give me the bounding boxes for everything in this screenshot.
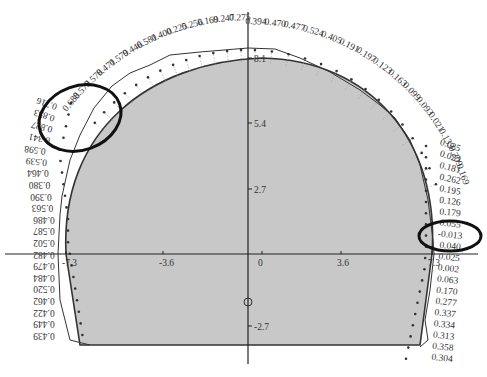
deformation-value-label: 0.313	[433, 330, 456, 342]
deformation-value-label: 0.055	[439, 218, 462, 230]
x-tick-label: 3.6	[337, 258, 349, 268]
y-tick-label: 8.1	[254, 54, 266, 64]
diagram-canvas: -7.3-3.603.67.3 8.15.42.7-2.7 0.3940.470…	[0, 0, 487, 377]
deformation-value-label: 0.563	[32, 203, 54, 213]
x-tick-label: -3.6	[159, 258, 174, 268]
deformation-value-label: 0.002	[437, 262, 460, 274]
deformation-value-label: 0.277	[435, 296, 458, 308]
deformation-value-label: 0.337	[434, 307, 457, 319]
deformation-value-label: 0.502	[33, 238, 55, 248]
deformation-value-label: 0.520	[33, 284, 55, 294]
deformation-value-label: 0.439	[33, 331, 55, 341]
deformation-value-label: 0.598	[23, 144, 46, 157]
deformation-value-label: 0.587	[33, 226, 55, 236]
deformation-value-label: 0.539	[25, 156, 47, 168]
deformation-value-label: 0.334	[433, 318, 456, 330]
deformation-value-label: 0.304	[431, 352, 454, 364]
deformation-value-label: 0.449	[33, 319, 55, 329]
tunnel-section-plot: -7.3-3.603.67.3 8.15.42.7-2.7 0.3940.470…	[0, 0, 487, 377]
deformation-value-label: 0.482	[33, 250, 55, 260]
deformation-value-label: 0.025	[438, 251, 461, 263]
y-tick-label: -2.7	[254, 322, 269, 332]
x-tick-label: -7.3	[62, 258, 77, 268]
deformation-value-label: 0.390	[30, 192, 52, 202]
deformation-value-label: 0.486	[33, 215, 55, 225]
deformation-value-label: 0.275	[229, 12, 251, 23]
deformation-value-label: 0.380	[29, 180, 51, 190]
deformation-value-label: 0.484	[33, 273, 55, 283]
y-tick-label: 2.7	[254, 185, 266, 195]
deformation-value-label: 0.170	[436, 285, 459, 297]
deformation-value-label: 0.126	[439, 195, 462, 208]
deformation-value-label: 0.063	[437, 274, 460, 286]
deformation-value-label: 0.479	[33, 261, 55, 271]
deformation-value-label: 0.179	[439, 206, 461, 218]
y-tick-label: 5.4	[254, 119, 266, 129]
deformation-value-label: 0.464	[27, 168, 49, 178]
deformation-value-label: 0.358	[432, 341, 455, 353]
deformation-value-label: 0.462	[33, 296, 55, 306]
x-tick-label: 0	[258, 258, 263, 268]
deformation-value-label: 0.422	[33, 308, 55, 318]
